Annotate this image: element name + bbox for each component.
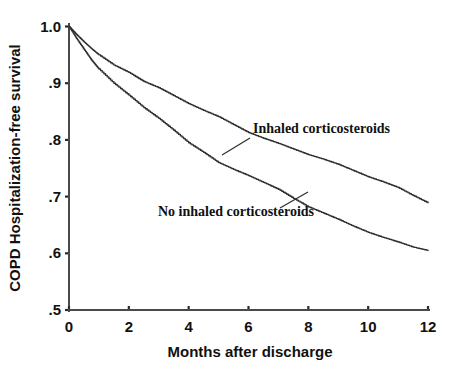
inhaled-corticosteroids-leader-line bbox=[222, 138, 250, 155]
survival-curve-inhaled-corticosteroids bbox=[69, 27, 428, 203]
x-tick-label: 10 bbox=[360, 318, 377, 335]
y-axis-tick-labels: .5.6.7.8.91.0 bbox=[40, 18, 61, 319]
y-tick-label: .5 bbox=[48, 301, 61, 318]
x-tick-label: 4 bbox=[184, 318, 193, 335]
series-label-inhaled-corticosteroids: Inhaled corticosteroids bbox=[253, 121, 391, 136]
survival-curve-figure: .5.6.7.8.91.0 024681012 Inhaled corticos… bbox=[0, 0, 455, 379]
y-axis-title: COPD Hospitalization-free survival bbox=[6, 44, 23, 292]
y-axis-ticks bbox=[65, 27, 68, 311]
series-label-no-inhaled-corticosteroids: No inhaled corticosteroids bbox=[158, 204, 315, 219]
x-tick-label: 6 bbox=[244, 318, 252, 335]
y-tick-label: .7 bbox=[48, 188, 61, 205]
x-tick-label: 12 bbox=[420, 318, 437, 335]
y-tick-label: 1.0 bbox=[40, 18, 61, 35]
y-tick-label: .9 bbox=[48, 74, 61, 91]
x-axis-title: Months after discharge bbox=[167, 343, 332, 360]
y-tick-label: .6 bbox=[48, 244, 61, 261]
y-tick-label: .8 bbox=[48, 131, 61, 148]
x-tick-label: 2 bbox=[125, 318, 133, 335]
x-tick-label: 0 bbox=[65, 318, 73, 335]
kaplan-meier-plot: .5.6.7.8.91.0 024681012 Inhaled corticos… bbox=[0, 0, 455, 379]
x-axis-tick-labels: 024681012 bbox=[65, 318, 437, 335]
x-tick-label: 8 bbox=[304, 318, 312, 335]
x-axis-ticks bbox=[69, 306, 428, 309]
